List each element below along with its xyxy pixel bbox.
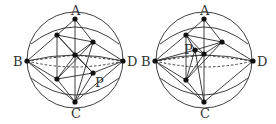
point-p [192,47,197,52]
label-p: P [184,42,193,57]
frame-edges [27,19,123,102]
point-lower-left [54,76,59,81]
label-c: C [71,106,81,121]
label-a: A [70,3,81,18]
label-b: B [13,54,23,69]
point-upper-left [183,32,188,37]
point-c [201,99,206,104]
label-d: D [127,54,137,69]
diagram-canvas: A B C D P [0,0,276,124]
label-a: A [199,3,210,18]
figure-left: A B C D P [13,3,137,121]
point-d [250,58,255,63]
point-center [201,51,206,56]
point-c [72,99,77,104]
point-upper-left [54,32,59,37]
point-center [72,52,77,57]
point-lower-left [183,77,188,82]
point-upper-right [90,39,95,44]
point-b [152,58,157,63]
label-d: D [257,54,267,69]
point-b [24,58,29,63]
frame-edges [155,19,253,102]
point-upper-right [219,39,224,44]
figure-right: A B C D P [141,3,267,121]
label-c: C [200,106,210,121]
label-p: P [95,75,104,90]
label-b: B [141,54,151,69]
point-d [120,58,125,63]
